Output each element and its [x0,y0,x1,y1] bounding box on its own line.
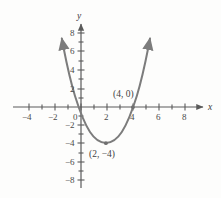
x-tick-label--4: −4 [22,113,32,122]
x-tick-label-4: 4 [130,113,135,122]
y-tick-label-4: 4 [70,66,75,75]
x-tick-label-2: 2 [104,113,109,122]
graph-figure: −4 −2 0 2 4 6 8 8 6 4 2 −2 −4 −6 −8 x y … [0,0,221,198]
vertex-label: (2, −4) [89,150,115,160]
y-tick-label-6: 6 [70,47,75,56]
x-intercept-label: (4, 0) [113,90,134,100]
coordinate-plane-svg [0,0,221,198]
x-axis-name: x [208,103,212,113]
x-intercept-point-marker [131,105,135,109]
vertex-point-marker [104,141,108,145]
y-axis-name: y [77,12,81,22]
y-tick-label--4: −4 [65,139,75,148]
y-tick-label--2: −2 [65,121,75,130]
y-tick-label--8: −8 [65,176,75,185]
y-tick-label--6: −6 [65,158,75,167]
x-tick-label-8: 8 [182,113,187,122]
x-tick-label-6: 6 [156,113,161,122]
parabola-curve [62,39,150,146]
x-axis-group [13,104,203,111]
y-tick-label-8: 8 [70,29,75,38]
y-tick-label-2: 2 [70,85,75,94]
x-tick-label--2: −2 [48,113,58,122]
